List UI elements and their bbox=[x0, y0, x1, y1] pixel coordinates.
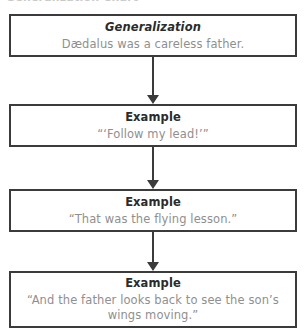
flowchart-box-example-2: Example “That was the flying lesson.” bbox=[9, 189, 297, 232]
flowchart-box-generalization: Generalization Dædalus was a careless fa… bbox=[9, 14, 297, 57]
box-body-text: “‘Follow my lead!’” bbox=[97, 127, 209, 142]
arrow-down-icon bbox=[147, 262, 159, 271]
arrow-down-icon bbox=[147, 95, 159, 104]
connector-line bbox=[152, 57, 154, 96]
connector-line bbox=[152, 232, 154, 263]
flowchart-box-example-1: Example “‘Follow my lead!’” bbox=[9, 104, 297, 147]
connector-line bbox=[152, 147, 154, 181]
arrow-down-icon bbox=[147, 180, 159, 189]
flowchart-box-example-3: Example “And the father looks back to se… bbox=[9, 271, 297, 328]
box-body-text: “That was the flying lesson.” bbox=[69, 212, 238, 227]
box-heading: Example bbox=[125, 110, 181, 124]
box-heading: Generalization bbox=[105, 20, 201, 34]
box-heading: Example bbox=[125, 276, 181, 290]
box-body-text: Dædalus was a careless father. bbox=[62, 37, 245, 52]
clipped-page-title-text: Generalization Chart bbox=[6, 0, 138, 4]
clipped-page-title: Generalization Chart bbox=[0, 0, 308, 6]
box-heading: Example bbox=[125, 195, 181, 209]
box-body-text: “And the father looks back to see the so… bbox=[27, 293, 279, 323]
flowchart-page: Generalization Chart Generalization Dæda… bbox=[0, 0, 308, 331]
